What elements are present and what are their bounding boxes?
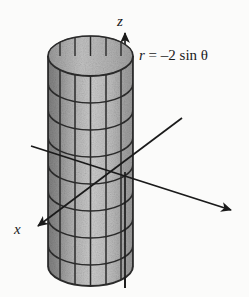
equation-operator: = –2	[145, 47, 180, 63]
cylinder-mesh	[48, 48, 133, 286]
cylinder-diagram-svg	[0, 0, 249, 297]
equation-label: r = –2 sin θ	[139, 48, 208, 63]
equation-theta: θ	[197, 47, 208, 63]
cylinder-surface	[48, 36, 133, 286]
figure-container: z x r = –2 sin θ	[0, 0, 249, 297]
y-axis	[186, 133, 220, 210]
axis-label-x: x	[14, 222, 21, 237]
equation-function: sin	[180, 47, 198, 63]
axis-label-z: z	[117, 14, 123, 29]
